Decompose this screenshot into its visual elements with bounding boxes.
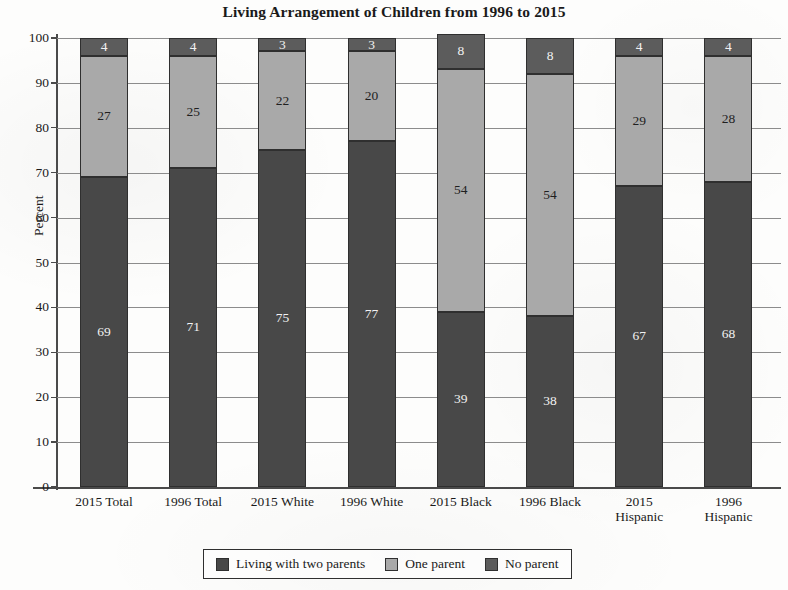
bar-group[interactable]: 67294 <box>615 38 663 487</box>
bar-segment-value: 27 <box>97 109 111 123</box>
bar-segment[interactable]: 4 <box>704 38 752 56</box>
x-axis-tick-label: 1996Hispanic <box>673 494 783 524</box>
bar-segment[interactable]: 20 <box>348 51 396 141</box>
bar-stack: 38548 <box>526 38 574 487</box>
legend-label: Living with two parents <box>236 557 365 571</box>
y-axis-tick-label: 50 <box>15 256 49 270</box>
bar-segment-value: 3 <box>279 38 286 52</box>
bar-segment[interactable]: 68 <box>704 182 752 487</box>
bar-stack: 71254 <box>169 38 217 487</box>
y-axis-tick <box>51 172 57 173</box>
bar-stack: 77203 <box>348 38 396 487</box>
bar-segment-value: 68 <box>722 327 736 341</box>
bar-segment-value: 4 <box>725 40 732 54</box>
x-axis-tick-label-line1: 2015 White <box>251 494 314 509</box>
bar-segment[interactable]: 3 <box>258 38 306 51</box>
bar-segment[interactable]: 75 <box>258 150 306 487</box>
bar-segment[interactable]: 4 <box>615 38 663 56</box>
bar-segment[interactable]: 8 <box>437 34 485 70</box>
bar-segment[interactable]: 69 <box>80 177 128 487</box>
gridline <box>57 173 781 174</box>
bar-segment-value: 75 <box>276 311 290 325</box>
bar-segment[interactable]: 22 <box>258 51 306 150</box>
y-axis-title: Percent <box>31 196 47 236</box>
gridline <box>57 128 781 129</box>
bar-segment[interactable]: 67 <box>615 186 663 487</box>
bar-group[interactable]: 39548 <box>437 38 485 487</box>
bar-segment[interactable]: 27 <box>80 56 128 177</box>
bar-stack: 67294 <box>615 38 663 487</box>
bar-segment-value: 25 <box>186 105 200 119</box>
chart-title: Living Arrangement of Children from 1996… <box>0 3 788 21</box>
x-axis-tick-label-line1: 2015 <box>626 494 653 509</box>
bar-segment[interactable]: 4 <box>80 38 128 56</box>
bar-segment[interactable]: 29 <box>615 56 663 186</box>
gridline <box>57 397 781 398</box>
x-axis-tick-label-line1: 2015 Black <box>430 494 492 509</box>
bar-segment-value: 54 <box>543 188 557 202</box>
legend-label: No parent <box>505 557 559 571</box>
bar-segment[interactable]: 54 <box>526 74 574 316</box>
bar-group[interactable]: 68284 <box>704 38 752 487</box>
y-axis-tick-label: 0 <box>15 480 49 494</box>
bar-group[interactable]: 69274 <box>80 38 128 487</box>
x-axis-line <box>33 487 781 489</box>
y-axis-tick <box>51 217 57 218</box>
legend-swatch <box>385 558 398 571</box>
x-axis-tick-label-line1: 1996 Black <box>519 494 581 509</box>
x-axis-tick-label-line1: 1996 <box>715 494 742 509</box>
bar-segment[interactable]: 25 <box>169 56 217 168</box>
bar-stack: 68284 <box>704 38 752 487</box>
y-axis-tick <box>51 352 57 353</box>
x-axis-tick-label-line1: 1996 White <box>340 494 403 509</box>
bar-segment[interactable]: 71 <box>169 168 217 487</box>
bar-group[interactable]: 38548 <box>526 38 574 487</box>
y-axis-tick <box>51 37 57 38</box>
x-axis-tick-label-line1: 2015 Total <box>75 494 133 509</box>
bar-segment-value: 4 <box>636 40 643 54</box>
bar-group[interactable]: 75223 <box>258 38 306 487</box>
legend-entry[interactable]: Living with two parents <box>216 557 365 571</box>
bar-segment-value: 4 <box>101 40 108 54</box>
bar-stack: 39548 <box>437 38 485 487</box>
gridline <box>57 38 781 39</box>
bar-group[interactable]: 71254 <box>169 38 217 487</box>
bar-segment[interactable]: 28 <box>704 56 752 182</box>
bar-segment-value: 3 <box>368 38 375 52</box>
y-axis-tick-label: 100 <box>15 31 49 45</box>
bar-segment-value: 8 <box>457 44 464 58</box>
y-axis-tick-label: 40 <box>15 300 49 314</box>
y-axis-tick-label: 20 <box>15 390 49 404</box>
bar-stack: 69274 <box>80 38 128 487</box>
gridline <box>57 442 781 443</box>
bar-segment[interactable]: 54 <box>437 69 485 311</box>
y-axis-tick-label: 80 <box>15 121 49 135</box>
legend-entry[interactable]: No parent <box>485 557 559 571</box>
y-axis-tick <box>51 441 57 442</box>
y-axis-tick <box>51 486 57 487</box>
bar-segment-value: 20 <box>365 89 379 103</box>
bar-segment-value: 4 <box>190 40 197 54</box>
y-axis-tick <box>51 262 57 263</box>
bar-segment-value: 54 <box>454 183 468 197</box>
stacked-bar-chart: Living Arrangement of Children from 1996… <box>0 0 788 590</box>
bar-segment[interactable]: 77 <box>348 141 396 487</box>
y-axis-tick-label: 30 <box>15 345 49 359</box>
bar-segment[interactable]: 39 <box>437 312 485 487</box>
bar-segment-value: 28 <box>722 112 736 126</box>
legend-entry[interactable]: One parent <box>385 557 465 571</box>
y-axis-tick <box>51 127 57 128</box>
bar-segment[interactable]: 38 <box>526 316 574 487</box>
y-axis-tick-label: 70 <box>15 166 49 180</box>
chart-legend: Living with two parentsOne parentNo pare… <box>203 549 572 579</box>
bar-segment[interactable]: 3 <box>348 38 396 51</box>
y-axis-tick-label: 10 <box>15 435 49 449</box>
legend-label: One parent <box>405 557 465 571</box>
bar-segment[interactable]: 4 <box>169 38 217 56</box>
y-axis-tick-label: 90 <box>15 76 49 90</box>
gridline <box>57 307 781 308</box>
x-axis-tick-label-line2: Hispanic <box>673 509 783 524</box>
bar-group[interactable]: 77203 <box>348 38 396 487</box>
bar-segment[interactable]: 8 <box>526 38 574 74</box>
bar-segment-value: 77 <box>365 307 379 321</box>
